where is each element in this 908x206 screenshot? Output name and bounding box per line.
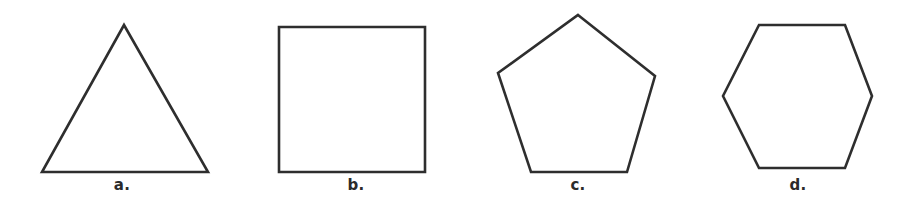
square-label: b. [347,178,364,193]
hexagon-shape [723,25,872,168]
shapes-canvas [0,0,908,206]
shapes-figure: a. b. c. d. [0,0,908,206]
square-shape [279,27,425,172]
triangle-shape [42,25,208,172]
triangle-label: a. [114,178,130,193]
pentagon-shape [498,15,655,172]
hexagon-label: d. [789,178,806,193]
pentagon-label: c. [570,178,585,193]
